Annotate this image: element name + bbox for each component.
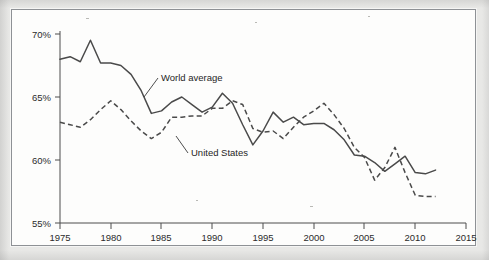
figure-frame xyxy=(11,9,476,246)
